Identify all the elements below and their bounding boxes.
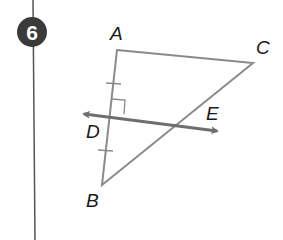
problem-number: 6 [26, 21, 38, 44]
right-angle-marker [112, 99, 125, 114]
label-d: D [86, 121, 100, 142]
tick-mark-db [98, 150, 113, 151]
label-e: E [206, 103, 219, 124]
problem-number-badge: 6 [17, 17, 47, 47]
diagram-canvas: 6 A C D E B [0, 0, 283, 240]
triangle-abc [102, 50, 253, 185]
line-de [84, 114, 217, 131]
label-c: C [256, 37, 270, 58]
label-a: A [109, 23, 123, 44]
tick-mark-ad [106, 83, 121, 84]
label-b: B [86, 190, 99, 211]
